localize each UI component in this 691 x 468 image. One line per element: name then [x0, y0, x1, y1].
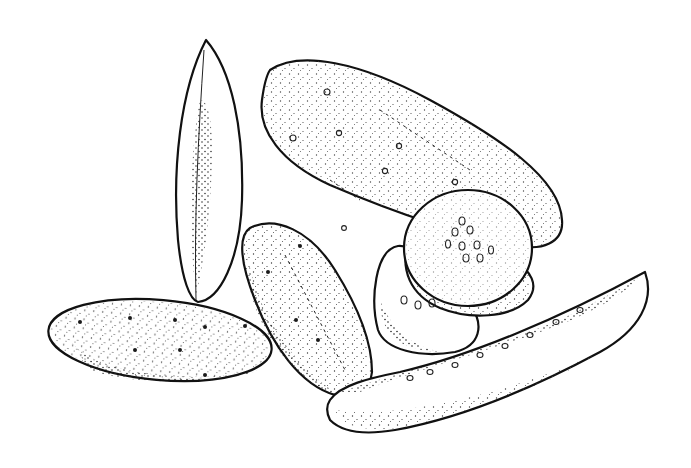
pickle-slices: [374, 190, 533, 354]
pickles-illustration: [0, 0, 691, 468]
vertical-spear: [176, 40, 242, 302]
slice-front: [404, 190, 532, 306]
tilted-gherkin: [242, 223, 372, 396]
small-gherkin: [45, 290, 275, 389]
